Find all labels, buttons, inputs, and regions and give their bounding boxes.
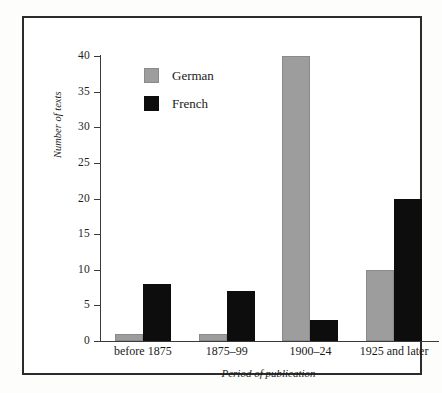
y-axis-tick xyxy=(94,127,100,128)
bar-german-1 xyxy=(199,334,227,341)
y-axis-tick-label: 15 xyxy=(48,228,90,240)
y-axis-tick xyxy=(94,270,100,271)
y-axis-tick xyxy=(94,234,100,235)
x-axis-line xyxy=(94,341,439,342)
bar-french-3 xyxy=(394,199,422,342)
x-axis-tick-label: 1925 and later xyxy=(352,344,436,358)
bar-german-0 xyxy=(115,334,143,341)
y-axis-tick-label: 25 xyxy=(48,157,90,169)
bar-german-2 xyxy=(282,56,310,341)
x-axis-tick-label: before 1875 xyxy=(101,344,185,358)
y-axis-tick xyxy=(94,199,100,200)
y-axis-tick xyxy=(94,92,100,93)
y-axis-tick xyxy=(94,341,100,342)
x-axis-title: Period of publication xyxy=(101,367,436,380)
y-axis-tick-label: 30 xyxy=(48,121,90,133)
y-axis-tick-label: 20 xyxy=(48,193,90,205)
bar-german-3 xyxy=(366,270,394,341)
x-axis-tick-label: 1875–99 xyxy=(185,344,269,358)
x-axis-tick-label: 1900–24 xyxy=(269,344,353,358)
y-axis-tick-label: 35 xyxy=(48,86,90,98)
bar-french-2 xyxy=(310,320,338,341)
y-axis-tick xyxy=(94,56,100,57)
bar-french-1 xyxy=(227,291,255,341)
figure-container: Number of texts 0510152025303540 before … xyxy=(0,0,442,393)
y-axis-tick-label: 5 xyxy=(48,299,90,311)
legend-label-german: German xyxy=(172,68,214,83)
y-axis-tick xyxy=(94,305,100,306)
y-axis-tick-label: 10 xyxy=(48,264,90,276)
chart-legend: German French xyxy=(144,64,264,120)
legend-item-german: German xyxy=(144,64,264,86)
y-axis-tick-label: 0 xyxy=(48,335,90,347)
german-legend-swatch xyxy=(144,68,159,83)
legend-item-french: French xyxy=(144,92,264,114)
bar-french-0 xyxy=(143,284,171,341)
french-legend-swatch xyxy=(144,96,159,111)
y-axis-tick xyxy=(94,163,100,164)
figure-frame: Number of texts 0510152025303540 before … xyxy=(22,16,422,375)
legend-label-french: French xyxy=(172,96,208,111)
y-axis-tick-label: 40 xyxy=(48,50,90,62)
